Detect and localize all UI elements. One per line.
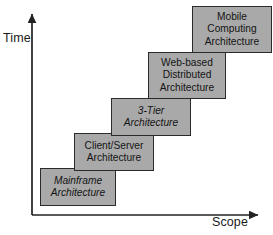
step-box-web-based-distributed[interactable]: Web-based Distributed Architecture: [148, 52, 226, 99]
step-box-mainframe[interactable]: Mainframe Architecture: [40, 168, 116, 206]
step-label-mainframe: Mainframe Architecture: [51, 175, 105, 199]
x-axis-label-scope: Scope: [212, 216, 248, 229]
architecture-evolution-diagram: Time Scope Mainframe Architecture Client…: [0, 0, 273, 235]
y-axis-label-time: Time: [3, 32, 31, 45]
step-label-three-tier: 3-Tier Architecture: [124, 105, 178, 129]
step-label-mobile-computing: Mobile Computing Architecture: [205, 11, 259, 48]
step-label-client-server: Client/Server Architecture: [85, 140, 144, 164]
step-box-mobile-computing[interactable]: Mobile Computing Architecture: [192, 6, 272, 53]
step-box-three-tier[interactable]: 3-Tier Architecture: [111, 98, 191, 136]
step-label-web-based-distributed: Web-based Distributed Architecture: [160, 57, 214, 94]
step-box-client-server[interactable]: Client/Server Architecture: [74, 133, 154, 171]
